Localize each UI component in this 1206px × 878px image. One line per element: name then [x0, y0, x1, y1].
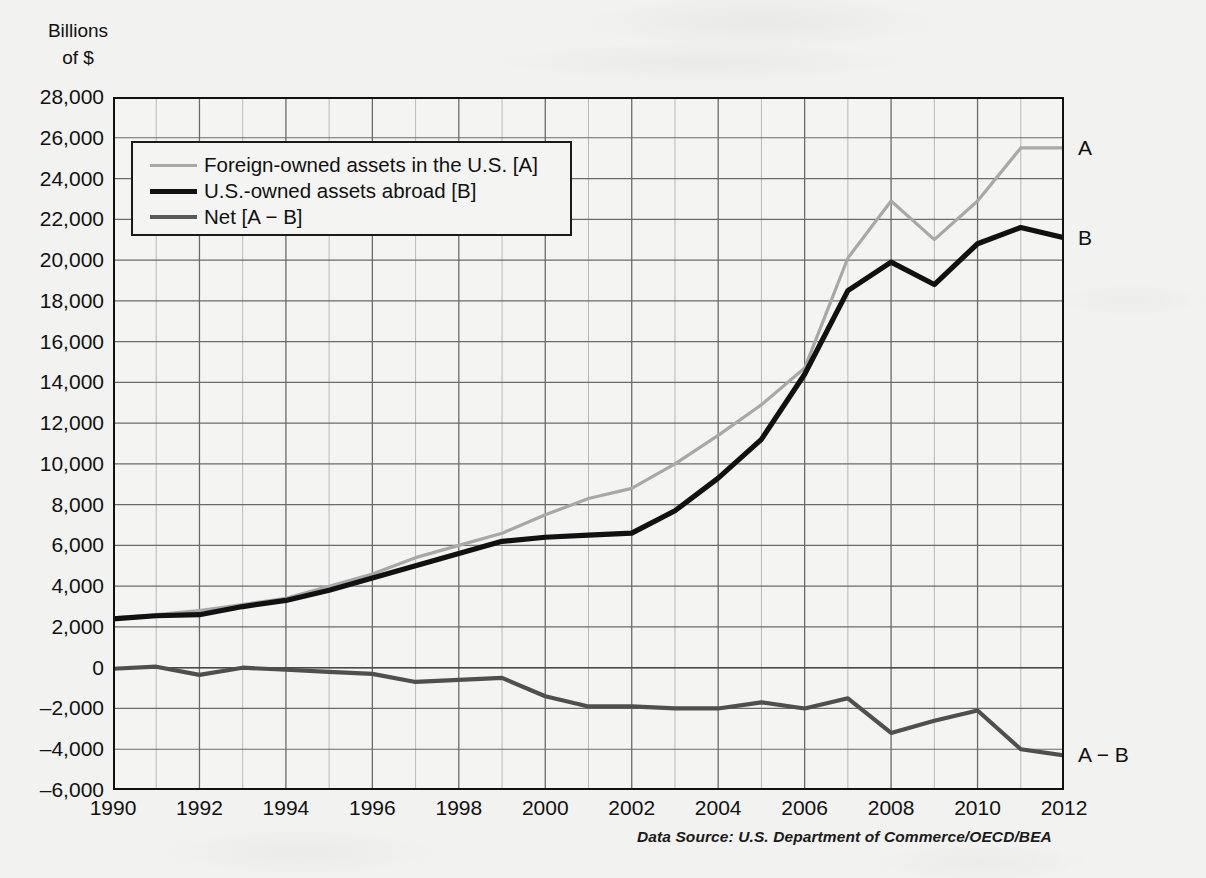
- x-axis-tick-label: 2012: [1041, 796, 1088, 820]
- x-axis-tick-label: 2008: [868, 796, 915, 820]
- y-axis-tick-label: 4,000: [4, 574, 104, 598]
- series-end-label: A: [1078, 136, 1092, 160]
- y-axis-tick-label: 24,000: [4, 167, 104, 191]
- y-axis-tick-label: 0: [4, 656, 104, 680]
- chart-page: Billionsof $ 28,00026,00024,00022,00020,…: [0, 0, 1206, 878]
- y-axis-tick-label: 6,000: [4, 533, 104, 557]
- y-axis-tick-label: 10,000: [4, 452, 104, 476]
- x-axis-tick-label: 1994: [263, 796, 310, 820]
- x-axis-tick-label: 1998: [435, 796, 482, 820]
- y-axis-tick-label: 20,000: [4, 248, 104, 272]
- y-axis-tick-label: 22,000: [4, 207, 104, 231]
- y-axis-tick-label: 12,000: [4, 411, 104, 435]
- x-axis-tick-label: 2002: [608, 796, 655, 820]
- legend-swatch-1: [150, 164, 197, 167]
- y-axis-tick-label: –2,000: [4, 696, 104, 720]
- chart-legend: Foreign-owned assets in the U.S. [A]U.S.…: [131, 141, 572, 236]
- x-axis-tick-label: 2010: [954, 796, 1001, 820]
- x-axis-tick-label: 1990: [90, 796, 137, 820]
- legend-label: Net [A − B]: [204, 205, 303, 229]
- y-axis-tick-label: 2,000: [4, 615, 104, 639]
- series-end-label: A − B: [1078, 743, 1129, 767]
- legend-item: Net [A − B]: [150, 204, 570, 230]
- y-axis-tick-labels: 28,00026,00024,00022,00020,00018,00016,0…: [0, 0, 104, 878]
- y-axis-tick-label: 16,000: [4, 330, 104, 354]
- y-axis-tick-label: 28,000: [4, 85, 104, 109]
- y-axis-tick-label: 14,000: [4, 370, 104, 394]
- x-axis-tick-label: 1996: [349, 796, 396, 820]
- series-end-label: B: [1078, 226, 1092, 250]
- legend-swatch-2: [150, 189, 197, 194]
- x-axis-tick-label: 2006: [781, 796, 828, 820]
- legend-swatch-3: [150, 215, 197, 219]
- y-axis-tick-label: –4,000: [4, 737, 104, 761]
- legend-label: Foreign-owned assets in the U.S. [A]: [204, 153, 538, 177]
- x-axis-tick-label: 2004: [695, 796, 742, 820]
- y-axis-tick-label: 26,000: [4, 126, 104, 150]
- legend-item: Foreign-owned assets in the U.S. [A]: [150, 152, 570, 178]
- y-axis-tick-label: 18,000: [4, 289, 104, 313]
- legend-label: U.S.-owned assets abroad [B]: [204, 179, 476, 203]
- x-axis-tick-label: 1992: [176, 796, 223, 820]
- x-axis-tick-label: 2000: [522, 796, 569, 820]
- source-note: Data Source: U.S. Department of Commerce…: [637, 828, 1052, 846]
- legend-item: U.S.-owned assets abroad [B]: [150, 178, 570, 204]
- y-axis-tick-label: 8,000: [4, 493, 104, 517]
